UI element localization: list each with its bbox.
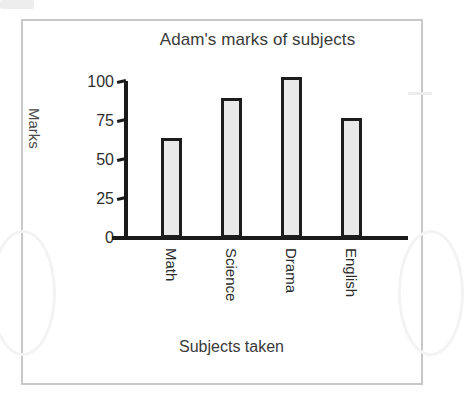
bar-science <box>221 98 242 238</box>
bar-math <box>161 138 182 238</box>
bar-english <box>341 118 362 238</box>
x-axis-category-label: English <box>343 248 360 297</box>
y-axis-tick-mark <box>117 196 126 201</box>
x-axis-title-text: Subjects taken <box>179 338 284 355</box>
y-axis-tick-mark <box>117 157 126 162</box>
x-axis-title: Subjects taken <box>0 338 439 356</box>
x-axis-category-label: Science <box>223 248 240 301</box>
y-axis-tick-mark <box>117 118 126 123</box>
y-axis-tick-mark <box>117 79 126 84</box>
x-axis-category-label: Drama <box>283 248 300 293</box>
x-axis-category-label: Math <box>163 248 180 281</box>
bar-drama <box>281 77 302 238</box>
